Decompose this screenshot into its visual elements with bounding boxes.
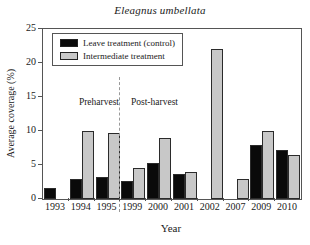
preharvest-annotation: Preharvest bbox=[79, 97, 119, 107]
bar-leave-1995 bbox=[96, 177, 108, 199]
y-tick-mark bbox=[38, 130, 42, 131]
bar-intermediate-1994 bbox=[82, 131, 94, 199]
bar-leave-2000 bbox=[147, 163, 159, 199]
x-tick-mark bbox=[171, 198, 172, 201]
x-tick-mark bbox=[94, 198, 95, 201]
bar-leave-1994 bbox=[70, 179, 82, 199]
x-tick-mark bbox=[274, 198, 275, 201]
y-tick-mark bbox=[38, 62, 42, 63]
x-tick-mark bbox=[248, 198, 249, 201]
legend-label: Intermediate treatment bbox=[83, 51, 165, 61]
bar-intermediate-2002 bbox=[211, 49, 223, 199]
x-tick-label: 1994 bbox=[68, 201, 94, 213]
y-tick-label: 10 bbox=[0, 124, 36, 136]
legend-item-leave-treatment: Leave treatment (control) bbox=[60, 38, 175, 48]
x-tick-label: 1999 bbox=[119, 201, 145, 213]
legend-item-intermediate-treatment: Intermediate treatment bbox=[60, 51, 175, 61]
x-tick-label: 1995 bbox=[94, 201, 120, 213]
chart-title: Eleagnus umbellata bbox=[30, 4, 290, 16]
bar-leave-1999 bbox=[121, 181, 133, 199]
legend-label: Leave treatment (control) bbox=[83, 38, 175, 48]
bar-intermediate-1995 bbox=[108, 133, 120, 199]
x-axis-title: Year bbox=[42, 222, 300, 234]
x-tick-mark bbox=[145, 198, 146, 201]
x-tick-label: 1993 bbox=[42, 201, 68, 213]
x-tick-label: 2001 bbox=[171, 201, 197, 213]
y-tick-label: 25 bbox=[0, 22, 36, 34]
y-axis-title-text: Average coverage (%) bbox=[6, 68, 17, 157]
bar-leave-2001 bbox=[173, 174, 185, 199]
bar-intermediate-2009 bbox=[262, 131, 274, 199]
y-tick-label: 20 bbox=[0, 56, 36, 68]
x-tick-label: 2009 bbox=[248, 201, 274, 213]
x-tick-label: 2002 bbox=[197, 201, 223, 213]
x-tick-mark bbox=[119, 198, 120, 201]
y-tick-mark bbox=[38, 28, 42, 29]
postharvest-annotation: Post-harvest bbox=[131, 97, 178, 107]
x-tick-mark bbox=[68, 198, 69, 201]
x-tick-mark bbox=[197, 198, 198, 201]
bar-intermediate-2010 bbox=[288, 155, 300, 199]
x-tick-label: 2000 bbox=[145, 201, 171, 213]
bar-intermediate-2007 bbox=[237, 179, 249, 199]
x-tick-mark bbox=[223, 198, 224, 201]
legend: Leave treatment (control) Intermediate t… bbox=[52, 33, 183, 66]
bar-leave-2009 bbox=[250, 145, 262, 199]
x-tick-label: 2010 bbox=[274, 201, 300, 213]
bar-intermediate-1999 bbox=[133, 168, 145, 199]
y-axis-title: Average coverage (%) bbox=[0, 28, 22, 198]
x-tick-label: 2007 bbox=[223, 201, 249, 213]
bar-leave-2010 bbox=[276, 150, 288, 199]
y-tick-mark bbox=[38, 198, 42, 199]
intermediate-treatment-swatch bbox=[60, 52, 78, 60]
leave-treatment-swatch bbox=[60, 39, 78, 47]
y-tick-label: 5 bbox=[0, 158, 36, 170]
y-tick-mark bbox=[38, 96, 42, 97]
bar-intermediate-2000 bbox=[159, 138, 171, 199]
figure-elaeagnus-bar-chart: Eleagnus umbellata Average coverage (%) … bbox=[0, 0, 310, 245]
bar-intermediate-2001 bbox=[185, 172, 197, 199]
bar-leave-1993 bbox=[44, 188, 56, 199]
y-tick-label: 15 bbox=[0, 90, 36, 102]
y-tick-label: 0 bbox=[0, 192, 36, 204]
y-tick-mark bbox=[38, 164, 42, 165]
harvest-divider-line bbox=[119, 77, 120, 212]
